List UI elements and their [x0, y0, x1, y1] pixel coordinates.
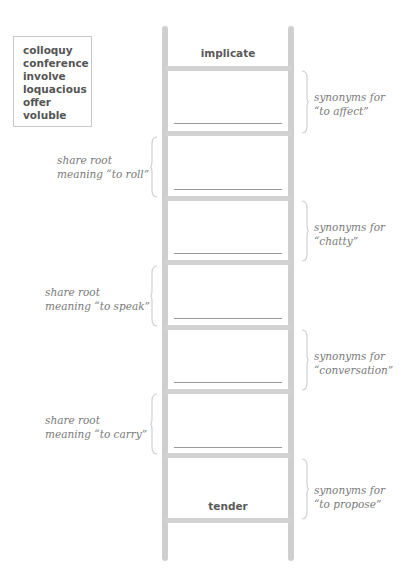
ladder-rung — [165, 453, 292, 458]
clue-right-2: synonyms for “chatty” — [314, 220, 385, 248]
ladder-bottom-word: tender — [168, 500, 288, 512]
right-brace-icon — [301, 329, 309, 391]
clue-right-3: synonyms for “conversation” — [314, 349, 393, 377]
ladder-rung — [165, 196, 292, 201]
word-bank: colloquy conference involve loquacious o… — [13, 36, 92, 127]
clue-left-2: share root meaning “to speak” — [45, 285, 150, 313]
word-bank-item: involve — [23, 70, 91, 83]
word-bank-item: voluble — [23, 109, 91, 122]
answer-blank-2[interactable] — [174, 189, 282, 190]
answer-blank-6[interactable] — [174, 447, 282, 448]
answer-blank-1[interactable] — [174, 123, 282, 124]
answer-blank-5[interactable] — [174, 382, 282, 383]
right-brace-icon — [301, 200, 309, 262]
ladder-top-word: implicate — [168, 47, 288, 59]
word-bank-item: conference — [23, 57, 91, 70]
word-bank-item: loquacious — [23, 83, 91, 96]
ladder-rung — [165, 131, 292, 136]
ladder-rung — [165, 66, 292, 71]
ladder-rung — [165, 389, 292, 394]
left-brace-icon — [150, 265, 158, 327]
clue-right-4: synonyms for “to propose” — [314, 483, 385, 511]
ladder-left-rail — [162, 26, 168, 561]
right-brace-icon — [301, 458, 309, 520]
ladder-rung — [165, 325, 292, 330]
ladder-rung — [165, 260, 292, 265]
answer-blank-3[interactable] — [174, 253, 282, 254]
clue-left-3: share root meaning “to carry” — [45, 413, 147, 441]
answer-blank-4[interactable] — [174, 318, 282, 319]
word-bank-item: colloquy — [23, 44, 91, 57]
ladder-right-rail — [288, 26, 294, 561]
ladder-rung — [165, 518, 292, 523]
left-brace-icon — [150, 136, 158, 198]
left-brace-icon — [150, 393, 158, 455]
right-brace-icon — [301, 70, 309, 134]
clue-left-1: share root meaning “to roll” — [57, 153, 149, 181]
clue-right-1: synonyms for “to affect” — [314, 90, 385, 118]
word-bank-item: offer — [23, 96, 91, 109]
